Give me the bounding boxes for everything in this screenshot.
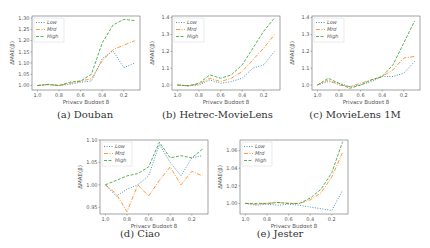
y-tick-label: 1.30 — [18, 15, 29, 21]
chart-ciao: 0.951.001.051.101.00.80.60.40.2Privacy B… — [76, 138, 211, 228]
y-tick-label: 1.20 — [18, 37, 29, 43]
chart-svg: 1.001.051.101.151.201.251.301.00.80.60.4… — [8, 14, 143, 104]
x-tick-label: 0.4 — [166, 216, 174, 222]
legend-label: Low — [115, 143, 126, 149]
y-tick-label: 1.10 — [18, 60, 29, 66]
x-tick-label: 0.8 — [55, 92, 63, 98]
legend-label: High — [187, 33, 199, 40]
x-tick-label: 0.2 — [188, 216, 196, 222]
legend-label: Mrd — [255, 150, 265, 156]
x-tick-label: 0.2 — [120, 92, 128, 98]
x-tick-label: 0.6 — [285, 216, 293, 222]
chart-svg: 1.01.11.21.31.41.00.80.60.40.2Privacy Bu… — [148, 14, 283, 104]
x-tick-label: 0.8 — [123, 216, 131, 222]
x-tick-label: 0.2 — [328, 216, 336, 222]
chart-movielens-1m: 1.01.11.21.31.41.00.80.60.40.2Privacy Bu… — [288, 14, 423, 104]
y-tick-label: 1.4 — [162, 14, 170, 20]
x-axis-label: Privacy Budget β — [343, 99, 390, 105]
x-tick-label: 0.6 — [77, 92, 85, 98]
series-line-mrd — [37, 41, 134, 86]
chart-hetrec-movielens: 1.01.11.21.31.41.00.80.60.40.2Privacy Bu… — [148, 14, 283, 104]
y-tick-label: 1.0 — [302, 82, 310, 88]
x-tick-label: 0.8 — [195, 92, 203, 98]
legend: LowMrdHigh — [174, 18, 204, 42]
x-tick-label: 0.4 — [238, 92, 246, 98]
chart-jester: 1.001.021.041.061.00.80.60.40.2Privacy B… — [216, 138, 351, 228]
y-tick-label: 1.02 — [226, 183, 237, 189]
caption-douban: (a) Douban — [45, 109, 125, 120]
x-tick-label: 0.8 — [263, 216, 271, 222]
x-axis-label: Privacy Budget β — [63, 99, 110, 105]
legend-label: Low — [255, 143, 266, 149]
legend-label: High — [115, 157, 127, 164]
y-axis-label: ΔMAE(β) — [9, 41, 16, 65]
chart-svg: 1.001.021.041.061.00.80.60.40.2Privacy B… — [216, 138, 351, 228]
legend-label: High — [47, 33, 59, 40]
x-axis-label: Privacy Budget β — [203, 99, 250, 105]
x-tick-label: 0.4 — [306, 216, 314, 222]
y-axis-label: ΔMAE(β) — [217, 165, 224, 189]
y-tick-label: 1.1 — [162, 65, 170, 71]
y-tick-label: 1.10 — [86, 138, 97, 143]
legend-label: High — [255, 157, 267, 164]
x-tick-label: 0.4 — [378, 92, 386, 98]
y-tick-label: 1.25 — [18, 26, 29, 32]
legend-label: Mrd — [115, 150, 125, 156]
x-tick-label: 0.6 — [357, 92, 365, 98]
caption-ciao: (d) Ciao — [100, 228, 180, 239]
legend-label: Low — [187, 19, 198, 25]
x-tick-label: 0.2 — [260, 92, 268, 98]
y-tick-label: 1.3 — [302, 31, 310, 37]
legend-label: Mrd — [47, 26, 57, 32]
legend: LowMrdHigh — [34, 18, 64, 42]
x-tick-label: 0.8 — [335, 92, 343, 98]
legend-label: High — [327, 33, 339, 40]
y-tick-label: 1.05 — [86, 159, 97, 165]
y-tick-label: 1.06 — [226, 147, 237, 153]
y-axis-label: ΔMAE(β) — [77, 165, 84, 189]
y-tick-label: 1.00 — [226, 200, 237, 206]
y-tick-label: 1.4 — [302, 14, 310, 20]
x-tick-label: 1.0 — [101, 216, 109, 222]
caption-hetrec-movielens: (b) Hetrec-MovieLens — [162, 109, 272, 120]
x-tick-label: 1.0 — [313, 92, 321, 98]
y-tick-label: 1.1 — [302, 65, 310, 71]
x-tick-label: 1.0 — [33, 92, 41, 98]
chart-svg: 0.951.001.051.101.00.80.60.40.2Privacy B… — [76, 138, 211, 228]
y-tick-label: 0.95 — [86, 204, 97, 210]
y-tick-label: 1.05 — [18, 71, 29, 77]
legend-label: Mrd — [327, 26, 337, 32]
legend: LowMrdHigh — [102, 142, 132, 166]
legend-label: Low — [327, 19, 338, 25]
y-tick-label: 1.2 — [302, 48, 310, 54]
y-tick-label: 1.00 — [18, 82, 29, 88]
y-tick-label: 1.04 — [226, 165, 237, 171]
y-tick-label: 1.3 — [162, 31, 170, 37]
y-tick-label: 1.2 — [162, 48, 170, 54]
x-tick-label: 1.0 — [241, 216, 249, 222]
caption-jester: (e) Jester — [240, 228, 320, 239]
x-tick-label: 0.2 — [400, 92, 408, 98]
series-line-mrd — [105, 167, 202, 212]
y-axis-label: ΔMAE(β) — [289, 41, 296, 65]
y-tick-label: 1.00 — [86, 182, 97, 188]
series-line-low — [177, 51, 274, 86]
legend-label: Low — [47, 19, 58, 25]
y-tick-label: 1.0 — [162, 82, 170, 88]
y-axis-label: ΔMAE(β) — [149, 41, 156, 65]
y-tick-label: 1.15 — [18, 49, 29, 55]
series-line-low — [317, 61, 414, 86]
chart-douban: 1.001.051.101.151.201.251.301.00.80.60.4… — [8, 14, 143, 104]
x-tick-label: 0.6 — [145, 216, 153, 222]
x-tick-label: 1.0 — [173, 92, 181, 98]
series-line-low — [245, 190, 342, 210]
legend: LowMrdHigh — [314, 18, 344, 42]
legend: LowMrdHigh — [242, 142, 272, 166]
caption-movielens-1m: (c) MovieLens 1M — [300, 109, 410, 120]
x-tick-label: 0.4 — [98, 92, 106, 98]
chart-svg: 1.01.11.21.31.41.00.80.60.40.2Privacy Bu… — [288, 14, 423, 104]
legend-label: Mrd — [187, 26, 197, 32]
x-tick-label: 0.6 — [217, 92, 225, 98]
